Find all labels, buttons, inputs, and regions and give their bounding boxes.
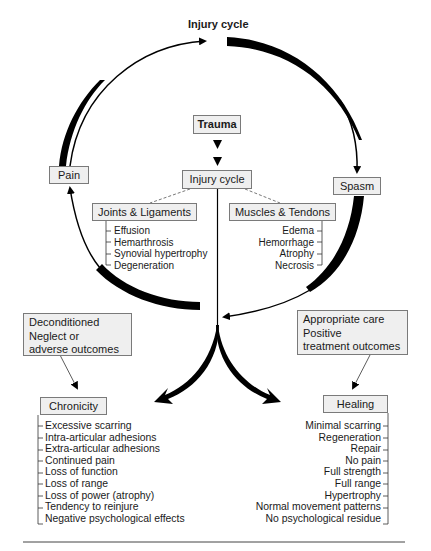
down-triangle-1	[213, 140, 222, 149]
joints-list: Effusion Hemarthrosis Synovial hypertrop…	[107, 225, 207, 271]
condition-line: treatment outcomes	[303, 340, 402, 354]
list-item: Tendency to reinjure	[38, 501, 185, 513]
list-item: Full strength	[256, 466, 388, 478]
arrow-appropriate-to-healing	[353, 355, 370, 388]
list-item: Excessive scarring	[38, 420, 185, 432]
dashed-connector-muscles	[245, 189, 280, 203]
joints-ligaments-box: Joints & Ligaments	[92, 203, 197, 221]
split-arrow-chronicity	[154, 325, 219, 404]
list-item: Extra-articular adhesions	[38, 443, 185, 455]
list-item: Negative psychological effects	[38, 513, 185, 525]
appropriate-care-box: Appropriate care Positive treatment outc…	[297, 310, 408, 355]
muscles-tendons-box: Muscles & Tendons	[229, 203, 336, 221]
list-item: Synovial hypertrophy	[107, 248, 207, 260]
list-item: Edema	[258, 225, 321, 237]
down-triangle-2	[213, 157, 222, 166]
healing-box: Healing	[323, 395, 388, 413]
list-item: Normal movement patterns	[256, 501, 388, 513]
muscles-list: Edema Hemorrhage Atrophy Necrosis	[258, 225, 321, 271]
dashed-connector-joints	[150, 189, 190, 203]
list-item: No pain	[256, 455, 388, 467]
injury-cycle-box: Injury cycle	[182, 170, 252, 189]
list-item: Continued pain	[38, 455, 185, 467]
list-item: Loss of power (atrophy)	[38, 490, 185, 502]
condition-line: Appropriate care	[303, 313, 402, 327]
spasm-box: Spasm	[333, 177, 381, 195]
list-item: Minimal scarring	[256, 420, 388, 432]
list-item: Intra-articular adhesions	[38, 432, 185, 444]
condition-line: Deconditioned	[29, 316, 126, 330]
condition-line: Positive	[303, 327, 402, 341]
list-item: Hemarthrosis	[107, 237, 207, 249]
arc-top-to-spasm	[340, 100, 357, 172]
list-item: Necrosis	[258, 260, 321, 272]
trauma-box: Trauma	[193, 115, 241, 134]
split-arrow-healing	[216, 325, 281, 404]
chronicity-list: Excessive scarring Intra-articular adhes…	[38, 420, 185, 524]
pain-box: Pain	[49, 166, 89, 184]
list-item: Repair	[256, 443, 388, 455]
arrow-deconditioned-to-chronicity	[60, 355, 77, 388]
arc-top-to-spasm-thick	[227, 37, 362, 140]
healing-list: Minimal scarring Regeneration Repair No …	[256, 420, 388, 524]
list-item: Hemorrhage	[258, 237, 321, 249]
diagram-title: Injury cycle	[188, 18, 249, 30]
list-item: Loss of function	[38, 466, 185, 478]
arc-junction-to-pain	[70, 188, 100, 268]
list-item: Degeneration	[107, 260, 207, 272]
deconditioned-box: Deconditioned Neglect or adverse outcome…	[23, 313, 132, 356]
list-item: Regeneration	[256, 432, 388, 444]
list-item: Hypertrophy	[256, 490, 388, 502]
chronicity-box: Chronicity	[40, 397, 107, 415]
list-item: Effusion	[107, 225, 207, 237]
list-item: Atrophy	[258, 248, 321, 260]
list-item: No psychological residue	[256, 513, 388, 525]
condition-line: adverse outcomes	[29, 343, 126, 357]
list-item: Full range	[256, 478, 388, 490]
list-item: Loss of range	[38, 478, 185, 490]
arc-pain-to-top	[70, 41, 205, 166]
condition-line: Neglect or	[29, 330, 126, 344]
